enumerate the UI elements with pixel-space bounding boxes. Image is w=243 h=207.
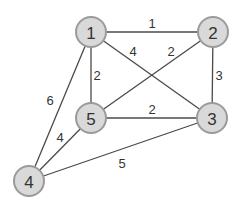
- edge-weight-5-2: 2: [167, 44, 174, 59]
- node-5: 5: [76, 103, 106, 133]
- edge-weight-1-3: 4: [129, 44, 136, 59]
- graph-diagram: 142236245 12345: [0, 0, 243, 207]
- edge-weight-1-5: 2: [93, 68, 100, 83]
- node-2: 2: [198, 17, 228, 47]
- edge-4-3: [29, 118, 212, 181]
- edge-weight-2-3: 3: [215, 68, 222, 83]
- edge-labels: 142236245: [46, 16, 222, 171]
- node-label: 4: [24, 173, 33, 192]
- node-4: 4: [14, 166, 44, 196]
- node-1: 1: [76, 17, 106, 47]
- edge-weight-1-4: 6: [46, 93, 53, 108]
- node-label: 1: [86, 24, 95, 43]
- edge-weight-5-4: 4: [56, 130, 63, 145]
- node-label: 2: [208, 24, 217, 43]
- edge-weight-4-3: 5: [118, 156, 125, 171]
- edge-weight-5-3: 2: [148, 102, 155, 117]
- node-3: 3: [197, 103, 227, 133]
- edge-weight-1-2: 1: [148, 16, 155, 31]
- node-label: 3: [207, 110, 216, 129]
- node-label: 5: [86, 110, 95, 129]
